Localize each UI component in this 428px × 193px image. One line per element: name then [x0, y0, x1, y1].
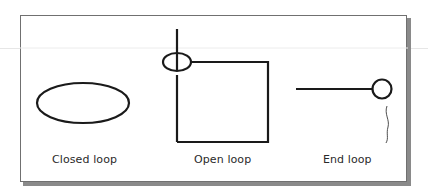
- open-loop-rectangle-path: [177, 62, 268, 142]
- closed-loop-figure: [37, 83, 129, 123]
- open-loop-figure: [163, 29, 268, 142]
- end-loop-squiggle: [386, 106, 388, 143]
- end-loop-figure: [296, 80, 392, 144]
- closed-loop-label: Closed loop: [52, 153, 117, 166]
- closed-loop-ellipse: [37, 83, 129, 123]
- end-loop-label: End loop: [323, 153, 372, 166]
- end-loop-ring: [373, 80, 392, 99]
- open-loop-label: Open loop: [194, 153, 251, 166]
